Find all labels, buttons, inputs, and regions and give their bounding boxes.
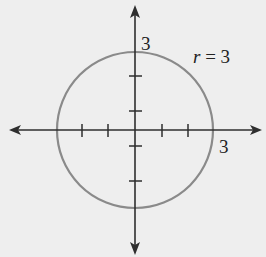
polar-diagram: 3 3 r = 3: [0, 0, 266, 257]
curve-label: r = 3: [193, 46, 230, 67]
curve-label-value: = 3: [200, 46, 230, 67]
x-intercept-label: 3: [219, 136, 229, 157]
y-intercept-label: 3: [141, 33, 151, 54]
